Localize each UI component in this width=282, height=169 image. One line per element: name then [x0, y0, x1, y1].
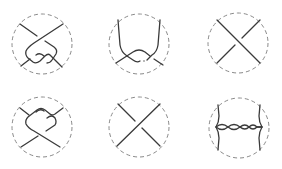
strand [21, 59, 30, 66]
diagram-2 [109, 14, 169, 74]
strand-under [142, 128, 160, 146]
strand-under [242, 20, 260, 38]
strand [46, 116, 56, 131]
strand [20, 108, 29, 115]
tangle-figure [0, 0, 282, 169]
strand [21, 136, 38, 147]
diagram-1 [12, 14, 72, 74]
diagram-4 [12, 97, 72, 157]
strand-under [118, 104, 135, 121]
dashed-boundary-circle [12, 97, 72, 157]
dashed-boundary-circle [109, 97, 169, 157]
strand-under [217, 45, 235, 63]
dashed-boundary-circle [12, 14, 72, 74]
strand [116, 50, 150, 63]
strand [147, 20, 160, 60]
dashed-boundary-circle [208, 13, 268, 73]
strand [118, 20, 140, 62]
strand [20, 24, 37, 36]
strand [36, 54, 44, 56]
diagram-3 [208, 13, 268, 73]
strand [26, 24, 63, 67]
strand [154, 59, 163, 65]
strand [26, 108, 63, 147]
diagram-6 [209, 98, 269, 158]
diagram-5 [109, 97, 169, 157]
